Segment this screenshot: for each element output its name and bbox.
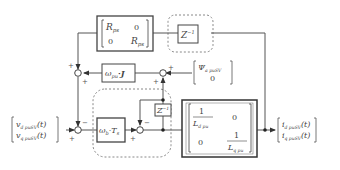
svg-text:0: 0: [232, 113, 237, 122]
sign-minus: −: [144, 119, 150, 127]
svg-text:vd puSV(t): vd puSV(t): [16, 120, 46, 130]
sign-plus: +: [68, 62, 74, 70]
svg-text:0: 0: [210, 74, 215, 83]
svg-text:vq puSV(t): vq puSV(t): [16, 131, 46, 141]
sign-plus: +: [168, 64, 174, 72]
junction-dot: [161, 98, 165, 102]
sign-plus: +: [153, 78, 159, 86]
svg-text:1: 1: [234, 131, 239, 140]
sign-plus: +: [69, 135, 75, 143]
input-voltage-vector: vd puSV(t) vq puSV(t): [12, 117, 58, 142]
junction-dot: [161, 128, 165, 132]
svg-text:iq puSV(t): iq puSV(t): [282, 131, 310, 141]
svg-text:ωb·Ts: ωb·Ts: [99, 126, 120, 136]
sum-junction-input: [75, 127, 82, 134]
sign-plus: +: [130, 135, 136, 143]
flux-vector: Ψa puSV 0: [194, 61, 232, 84]
delay-block-top: Z−1: [178, 25, 198, 43]
svg-text:id puSV(t): id puSV(t): [282, 120, 310, 130]
inductance-matrix-block: 1 Ld pu 0 0 1 Lq pu: [182, 100, 257, 157]
sum-junction-inner: [137, 127, 144, 134]
delay-block-inner: Z−1: [155, 104, 171, 116]
junction-dot: [263, 128, 267, 132]
svg-text:0: 0: [198, 138, 203, 147]
omega-ts-block: ωb·Ts: [97, 118, 125, 142]
sum-junction-left: [75, 70, 82, 77]
block-diagram: + + + + − + − + Rps 0 0 Rps Z−1 ωpu·J Ψa…: [0, 0, 340, 170]
resistance-matrix-block: Rps 0 0 Rps: [97, 16, 153, 51]
svg-text:Ψa puSV: Ψa puSV: [198, 63, 222, 73]
omega-j-block: ωpu·J: [102, 64, 135, 82]
svg-text:1: 1: [199, 107, 204, 116]
output-current-vector: id puSV(t) iq puSV(t): [278, 118, 316, 142]
sign-plus: +: [82, 78, 88, 86]
svg-text:0: 0: [134, 23, 139, 32]
sign-minus: −: [82, 119, 88, 127]
svg-text:0: 0: [108, 37, 113, 46]
sum-junction-right: [160, 70, 167, 77]
